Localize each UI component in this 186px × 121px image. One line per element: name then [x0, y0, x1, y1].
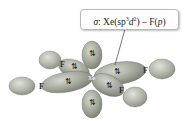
f-left-outer-lobe	[9, 77, 35, 95]
xe-center-label: Xe	[88, 75, 95, 81]
f-left-label: F	[39, 82, 44, 91]
electron-pair-left: ⇅	[65, 77, 72, 86]
orbital-label-box: σ: Xe(sp3d2) – F(p)	[80, 9, 179, 30]
label-pointer-line	[115, 29, 125, 65]
electron-pair-top: ⇅	[89, 49, 96, 58]
f-lower-right-outer-lobe	[123, 87, 147, 107]
f-right-outer-lobe	[149, 59, 175, 79]
f-lower-right-label: F	[119, 86, 124, 95]
electron-pair-right: ⇅	[114, 67, 121, 76]
electron-pair-bottom: ⇅	[89, 98, 96, 107]
electron-pair-lower-right: ⇅	[106, 81, 113, 90]
f-upper-left-outer-lobe	[39, 51, 61, 69]
f-right-label: F	[143, 66, 148, 75]
electron-pair-upper-left: ⇅	[71, 62, 78, 71]
f-upper-left-label: F	[60, 60, 65, 69]
